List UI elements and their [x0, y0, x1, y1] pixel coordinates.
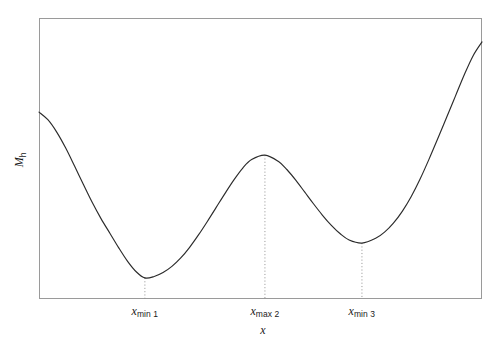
x-axis-symbol: x: [260, 323, 265, 337]
tick-label-x-max-2: xmax 2: [250, 305, 279, 319]
figure-canvas: Mh x xmin 1 xmax 2 xmin 3: [0, 0, 498, 349]
y-axis-subscript: h: [17, 153, 27, 158]
y-axis-label: Mh: [0, 140, 40, 180]
tick-0-subscript: min 1: [137, 309, 158, 319]
y-axis-symbol: M: [12, 157, 26, 167]
guide-lines: [145, 155, 362, 299]
curve-m-h: [39, 42, 482, 278]
plot-area: [39, 18, 482, 299]
x-axis-label: x: [0, 324, 498, 336]
tick-2-subscript: min 3: [354, 309, 375, 319]
tick-label-x-min-3: xmin 3: [349, 305, 376, 319]
tick-1-subscript: max 2: [256, 309, 280, 319]
tick-label-x-min-1: xmin 1: [132, 305, 159, 319]
